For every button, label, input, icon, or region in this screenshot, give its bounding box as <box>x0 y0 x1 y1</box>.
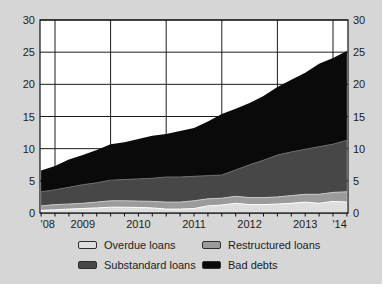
y-axis-label-right-10: 10 <box>353 143 365 155</box>
stacked-area-chart: 005510101515202025253030'082009201020112… <box>0 0 387 290</box>
legend-item-restructured-loans: Restructured loans <box>202 239 320 251</box>
x-axis-label-2010: 2010 <box>126 218 150 230</box>
y-axis-label-right-0: 0 <box>353 207 359 219</box>
y-axis-label-left-5: 5 <box>29 175 35 187</box>
x-axis-label--14: '14 <box>332 218 346 230</box>
y-axis-label-left-25: 25 <box>23 46 35 58</box>
x-axis-label--08: '08 <box>41 218 55 230</box>
x-axis-label-2009: 2009 <box>71 218 95 230</box>
y-axis-label-left-10: 10 <box>23 143 35 155</box>
y-axis-label-right-30: 30 <box>353 14 365 26</box>
bad-debts-swatch <box>202 261 221 269</box>
x-axis-label-2011: 2011 <box>182 218 206 230</box>
legend-item-bad-debts: Bad debts <box>202 259 278 271</box>
x-axis-label-2013: 2013 <box>293 218 317 230</box>
x-axis-label-2012: 2012 <box>237 218 261 230</box>
y-axis-label-left-15: 15 <box>23 111 35 123</box>
overdue-loans-swatch <box>78 241 97 249</box>
legend-item-substandard-loans: Substandard loans <box>78 259 196 271</box>
y-axis-label-left-20: 20 <box>23 78 35 90</box>
legend-item-overdue-loans: Overdue loans <box>78 239 176 251</box>
y-axis-label-right-20: 20 <box>353 78 365 90</box>
restructured-loans-label: Restructured loans <box>228 239 320 251</box>
y-axis-label-right-25: 25 <box>353 46 365 58</box>
loan-quality-chart-figure: 005510101515202025253030'082009201020112… <box>0 0 387 290</box>
substandard-loans-swatch <box>78 261 97 269</box>
restructured-loans-swatch <box>202 241 221 249</box>
y-axis-label-right-15: 15 <box>353 111 365 123</box>
overdue-loans-label: Overdue loans <box>104 239 176 251</box>
y-axis-label-right-5: 5 <box>353 175 359 187</box>
bad-debts-label: Bad debts <box>228 259 278 271</box>
y-axis-label-left-30: 30 <box>23 14 35 26</box>
substandard-loans-label: Substandard loans <box>104 259 196 271</box>
y-axis-label-left-0: 0 <box>29 207 35 219</box>
